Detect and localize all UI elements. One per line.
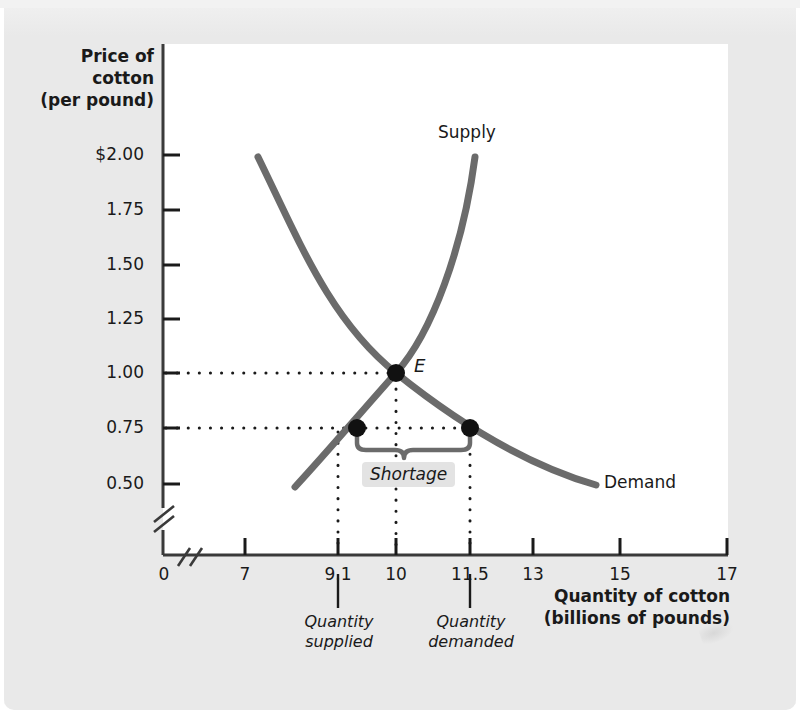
x-axis-title-line-1: Quantity of cotton: [430, 586, 730, 608]
x-tick-label-9-1: 9.1: [310, 564, 366, 584]
quantity-demanded-callout-line-1: Quantity: [404, 612, 538, 632]
quantity-supplied-marker: [348, 419, 366, 437]
supply-curve-label: Supply: [438, 122, 496, 142]
shortage-brace: [357, 432, 470, 458]
y-axis-title-line-1: Price of: [18, 46, 154, 68]
quantity-demanded-callout-line-2: demanded: [404, 632, 538, 652]
equilibrium-label: E: [414, 355, 425, 376]
x-tick-label-0: 0: [142, 564, 186, 584]
y-tick-label-1-25: 1.25: [52, 308, 144, 328]
y-axis-title-line-3: (per pound): [18, 90, 154, 112]
x-tick-label-13: 13: [511, 564, 555, 584]
y-axis-break-icon: [154, 506, 174, 532]
equilibrium-marker: [387, 364, 405, 382]
figure-root: Price of cotton (per pound) Quantity of …: [0, 0, 800, 718]
y-tick-marks: [163, 155, 180, 484]
supply-curve: [295, 157, 475, 487]
y-tick-label-0-75: 0.75: [52, 417, 144, 437]
x-tick-label-7: 7: [223, 564, 267, 584]
y-axis-title-line-2: cotton: [18, 68, 154, 90]
demand-curve-label: Demand: [604, 472, 676, 492]
quantity-supplied-callout-line-1: Quantity: [278, 612, 400, 632]
y-tick-label-0-50: 0.50: [52, 473, 144, 493]
x-tick-label-17: 17: [705, 564, 749, 584]
quantity-demanded-marker: [461, 419, 479, 437]
y-tick-label-1-75: 1.75: [52, 199, 144, 219]
x-tick-label-11-5: 11.5: [440, 564, 500, 584]
y-tick-label-1-00: 1.00: [52, 362, 144, 382]
quantity-supplied-callout: Quantity supplied: [278, 612, 400, 652]
y-tick-label-1-50: 1.50: [52, 254, 144, 274]
quantity-supplied-callout-line-2: supplied: [278, 632, 400, 652]
x-tick-label-15: 15: [598, 564, 642, 584]
x-tick-label-10: 10: [374, 564, 418, 584]
y-tick-label-2-00: $2.00: [52, 144, 144, 164]
x-tick-marks: [245, 538, 727, 555]
quantity-demanded-callout: Quantity demanded: [404, 612, 538, 652]
shortage-label: Shortage: [362, 462, 455, 487]
y-axis-title: Price of cotton (per pound): [18, 46, 154, 111]
